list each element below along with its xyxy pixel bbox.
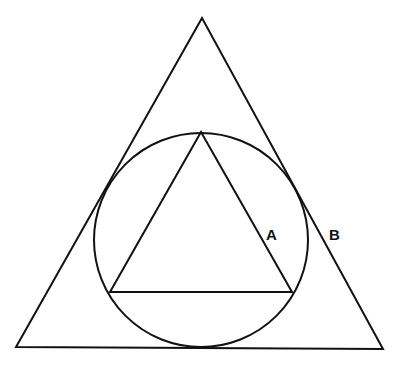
geometry-figure: A B	[0, 0, 401, 366]
inner-triangle	[110, 132, 292, 292]
label-a: A	[266, 226, 277, 243]
diagram-canvas: A B	[0, 0, 401, 366]
label-b: B	[329, 226, 340, 243]
outer-triangle	[16, 18, 383, 349]
